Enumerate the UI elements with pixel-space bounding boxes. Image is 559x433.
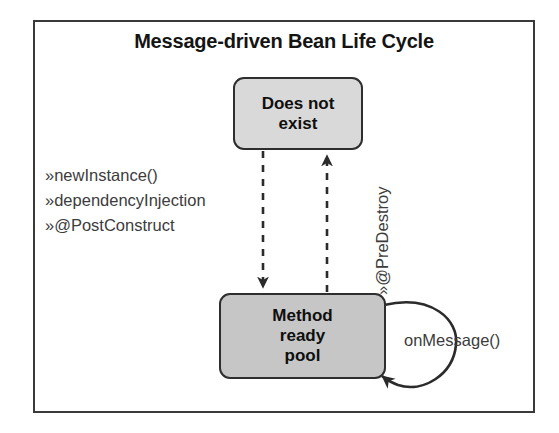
state-method-ready-pool-line2: ready: [272, 326, 332, 346]
callout-item-0: »newInstance(): [45, 163, 206, 188]
callout-marker-icon: »: [45, 216, 53, 234]
callout-item-1: »dependencyInjection: [45, 188, 206, 213]
lifecycle-callout-list: »newInstance() »dependencyInjection »@Po…: [45, 163, 206, 238]
state-method-ready-pool-line1: Method: [272, 306, 332, 326]
state-does-not-exist-line1: Does not: [262, 94, 335, 114]
callout-item-2: »@PostConstruct: [45, 213, 206, 238]
onmessage-loop-label: onMessage(): [404, 331, 500, 350]
callout-marker-icon: »: [45, 166, 53, 184]
diagram-canvas: Message-driven Bean Life Cycle Does not …: [0, 0, 559, 433]
callout-item-0-label: newInstance(): [54, 166, 158, 184]
state-method-ready-pool[interactable]: Method ready pool: [219, 293, 386, 379]
callout-item-1-label: dependencyInjection: [54, 191, 205, 209]
figure-title: Message-driven Bean Life Cycle: [33, 30, 535, 53]
predestroy-label-text: @PreDestroy: [373, 187, 391, 286]
state-method-ready-pool-line3: pool: [272, 346, 332, 366]
state-does-not-exist[interactable]: Does not exist: [233, 77, 363, 150]
callout-marker-icon: »: [45, 191, 53, 209]
predestroy-marker-icon: »: [373, 287, 391, 295]
callout-item-2-label: @PostConstruct: [54, 216, 174, 234]
predestroy-transition-label: »@PreDestroy: [373, 145, 392, 295]
state-does-not-exist-line2: exist: [262, 114, 335, 134]
